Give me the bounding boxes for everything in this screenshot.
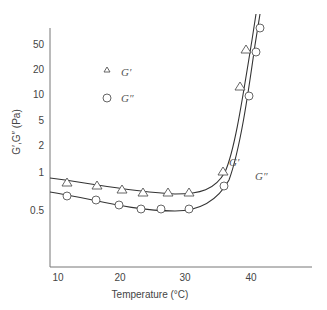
- y-axis-label: G′,G″ (Pa): [11, 109, 22, 154]
- y-tick-20: 20: [33, 64, 45, 75]
- y-tick-5: 5: [38, 115, 44, 126]
- x-tick-40: 40: [245, 272, 257, 283]
- annotation-g-double-prime: G″: [255, 170, 268, 182]
- legend-label-g-prime: G′: [121, 66, 132, 78]
- y-tick-50: 50: [33, 39, 45, 50]
- y-tick-labels: 50 20 10 5 2 1 0.5: [30, 39, 44, 216]
- legend-triangle-icon: [104, 67, 110, 72]
- x-tick-20: 20: [114, 272, 126, 283]
- x-tick-10: 10: [52, 272, 64, 283]
- g-prime-markers: [62, 45, 251, 196]
- legend-label-g-double-prime: G″: [121, 92, 134, 104]
- x-tick-30: 30: [179, 272, 191, 283]
- annotation-g-prime: G′: [229, 156, 240, 168]
- legend-circle-icon: [103, 94, 111, 102]
- x-tick-labels: 10 20 30 40: [52, 272, 257, 283]
- y-tick-10: 10: [33, 89, 45, 100]
- y-tick-2: 2: [38, 140, 44, 151]
- g-prime-curve: [50, 14, 256, 194]
- legend: G′ G″: [103, 66, 134, 104]
- x-axis-label: Temperature (°C): [112, 289, 189, 300]
- chart: 50 20 10 5 2 1 0.5 10 20 30 40 Temperatu…: [0, 0, 327, 310]
- g-double-prime-curve: [50, 14, 260, 211]
- y-tick-0-5: 0.5: [30, 205, 44, 216]
- y-tick-1: 1: [38, 167, 44, 178]
